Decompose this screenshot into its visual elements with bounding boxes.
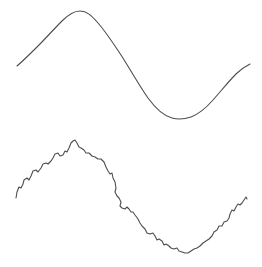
chart-background <box>0 0 262 267</box>
chart-plot-area <box>0 0 262 267</box>
chart-figure <box>0 0 262 267</box>
